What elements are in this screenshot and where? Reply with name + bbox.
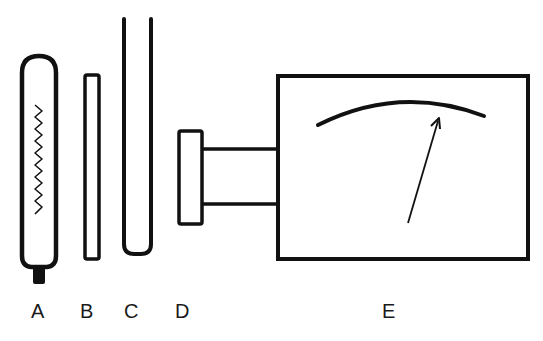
- window-d: [179, 131, 202, 224]
- meter-scale-arc: [318, 102, 484, 125]
- label-c: C: [124, 300, 138, 322]
- label-d: D: [175, 300, 189, 322]
- tube-a-cap: [33, 266, 45, 284]
- label-b: B: [80, 300, 93, 322]
- component-c-u-tube: [124, 19, 151, 254]
- component-d-window: [179, 131, 278, 224]
- label-e: E: [382, 300, 395, 322]
- component-b-rod: [85, 75, 99, 259]
- meter-needle: [408, 121, 438, 223]
- component-a-tube: [22, 56, 56, 284]
- apparatus-diagram: A B C D E: [0, 0, 543, 341]
- filament-icon: [35, 105, 42, 214]
- component-e-meter: [278, 76, 528, 259]
- label-a: A: [31, 300, 45, 322]
